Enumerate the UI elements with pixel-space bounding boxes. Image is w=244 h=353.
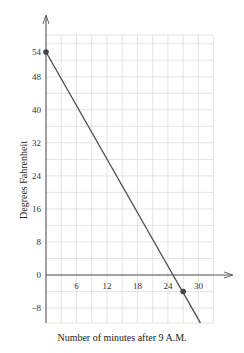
data-point-marker <box>180 289 186 295</box>
line-chart: 54484032241680−8 612182430 Degrees Fahre… <box>0 0 244 353</box>
y-tick-label: 48 <box>32 72 42 82</box>
x-tick-label: 18 <box>133 281 143 291</box>
y-tick-label: 8 <box>37 237 42 247</box>
x-tick-label: 24 <box>163 281 173 291</box>
y-tick-label: 24 <box>32 171 42 181</box>
y-tick-label: 32 <box>32 138 41 148</box>
x-axis-label: Number of minutes after 9 A.M. <box>57 332 186 343</box>
series-line <box>46 52 200 323</box>
grid <box>46 35 214 323</box>
y-tick-label: 54 <box>32 47 42 57</box>
y-tick-label: 0 <box>37 270 42 280</box>
y-axis-label: Degrees Fahrenheit <box>18 141 29 219</box>
y-tick-labels: 54484032241680−8 <box>31 47 41 313</box>
axes <box>43 15 233 323</box>
y-tick-label: −8 <box>31 303 41 313</box>
x-tick-label: 30 <box>194 281 204 291</box>
x-tick-label: 12 <box>102 281 111 291</box>
data-series <box>46 52 200 323</box>
y-tick-label: 16 <box>32 204 42 214</box>
y-tick-label: 40 <box>32 105 42 115</box>
x-tick-label: 6 <box>74 281 79 291</box>
data-point-marker <box>43 49 49 55</box>
